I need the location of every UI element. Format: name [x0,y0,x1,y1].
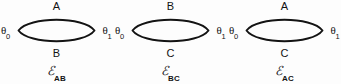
top-edge-label: B [114,1,227,12]
right-vertex-label: θ1 [103,25,112,40]
right-vertex-label: θ1 [331,25,340,40]
diagram-e-ab: A θ0 θ1 B ℰAB [0,0,113,84]
caption-subscript: AB [54,74,66,83]
diagram-e-ac: A θ0 θ1 C ℰAC [228,0,341,84]
left-vertex-subscript: 0 [120,32,124,41]
caption-subscript: AC [282,74,294,83]
right-vertex-subscript: 1 [222,32,226,41]
caption-subscript: BC [168,74,180,83]
right-vertex-subscript: 1 [108,32,112,41]
left-vertex-subscript: 0 [6,32,10,41]
top-edge-label: A [228,1,341,12]
bottom-edge-label: C [114,48,227,59]
diagram-caption: ℰAC [228,63,341,83]
lens-icon [131,14,210,47]
lens-shape [245,14,324,47]
right-vertex-label: θ1 [217,25,226,40]
left-vertex-subscript: 0 [234,32,238,41]
lens-shape [17,14,96,47]
diagram-e-bc: B θ0 θ1 C ℰBC [114,0,227,84]
left-vertex-label: θ0 [229,25,238,40]
bottom-edge-label: C [228,48,341,59]
top-edge-label: A [0,1,113,12]
lens-shape [131,14,210,47]
lens-icon [17,14,96,47]
diagram-caption: ℰAB [0,63,113,83]
figure-three-lens-diagrams: A θ0 θ1 B ℰAB B θ0 θ1 C [0,0,341,84]
diagram-caption: ℰBC [114,63,227,83]
left-vertex-label: θ0 [115,25,124,40]
right-vertex-subscript: 1 [336,32,340,41]
lens-icon [245,14,324,47]
left-vertex-label: θ0 [1,25,10,40]
bottom-edge-label: B [0,48,113,59]
